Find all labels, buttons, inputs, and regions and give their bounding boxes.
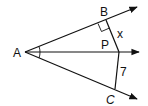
diagram-svg: A B P C x 7 <box>0 0 148 106</box>
label-seven: 7 <box>120 65 127 79</box>
label-b: B <box>100 5 108 19</box>
angle-arc-upper <box>39 47 40 53</box>
label-c: C <box>106 93 115 106</box>
label-a: A <box>13 46 21 60</box>
geometry-diagram: A B P C x 7 <box>0 0 148 106</box>
angle-arc-lower <box>39 52 40 58</box>
label-x: x <box>117 27 123 41</box>
segment-pc <box>115 52 119 89</box>
label-p: P <box>101 38 109 52</box>
